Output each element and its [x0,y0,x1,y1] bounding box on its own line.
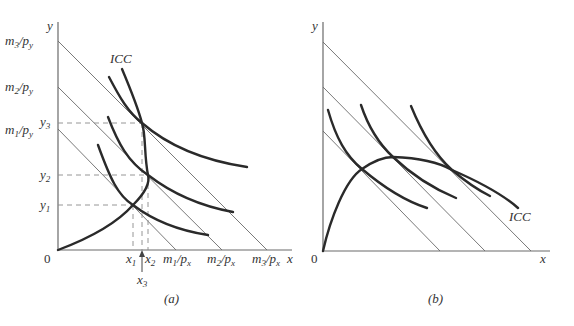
panel-a-x3-label: x3 [136,272,148,289]
panel-b-caption: (b) [428,291,443,306]
panel-a: y x 0 ICC m3/py m2/py m1/py y3 y2 y1 x1 … [5,18,293,306]
income-consumption-curve-figure: y x 0 ICC m3/py m2/py m1/py y3 y2 y1 x1 … [0,0,574,326]
panel-b-budget-line-3 [323,42,531,251]
panel-b-x-axis-label: x [539,251,546,266]
panel-a-y1-label: y1 [38,197,50,214]
panel-b-y-axis-label: y [310,18,318,33]
panel-b-icc-curve [323,157,518,251]
panel-b-origin-label: 0 [311,251,318,266]
panel-a-x1-label: x1 [125,251,136,268]
panel-a-x-intercept-m1-px: m1/px [163,251,191,268]
panel-a-y-intercept-m1-py: m1/py [5,122,33,139]
panel-a-x-intercept-m3-px: m3/px [252,251,280,268]
panel-a-budget-line-3 [58,41,267,250]
panel-b: y x 0 ICC (b) [310,18,550,306]
panel-a-origin-label: 0 [44,251,51,266]
panel-a-y-intercept-m2-py: m2/py [5,79,33,96]
panel-a-y-axis-label: y [45,18,53,33]
panel-a-x2-label: x2 [144,251,156,268]
panel-a-y-intercept-m3-py: m3/py [5,33,33,50]
panel-a-icc-label: ICC [109,51,132,66]
panel-a-x-intercept-m2-px: m2/px [207,251,235,268]
panel-b-budget-line-2 [323,87,485,251]
panel-a-y2-label: y2 [38,167,51,184]
panel-a-x-axis-label: x [286,251,293,266]
panel-a-caption: (a) [164,291,179,306]
panel-a-y3-label: y3 [38,114,51,131]
panel-b-icc-label: ICC [508,209,531,224]
panel-b-budget-line-1 [323,131,440,251]
